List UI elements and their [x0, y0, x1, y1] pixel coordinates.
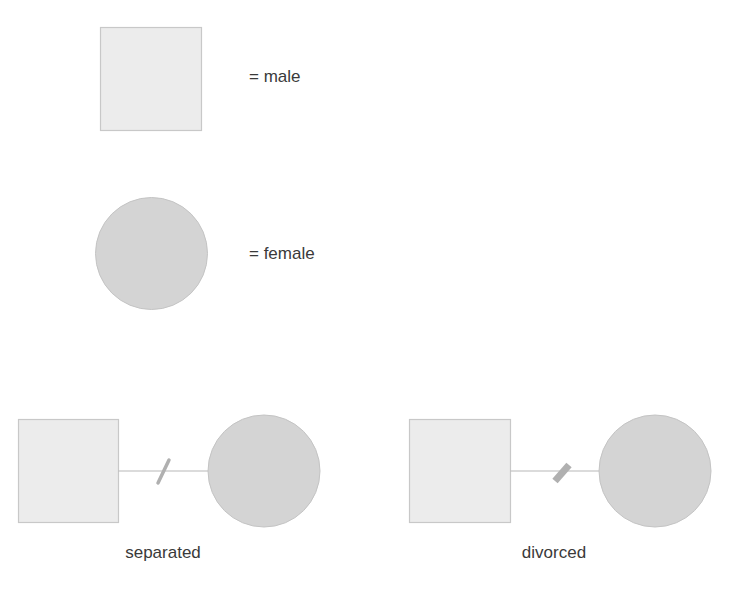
- female-legend-label: = female: [249, 245, 315, 262]
- divorced-female-circle: [599, 415, 711, 527]
- female-circle-symbol: [96, 198, 208, 310]
- divorced-couple: [410, 415, 712, 527]
- genogram-diagram: [0, 0, 744, 594]
- male-legend-label: = male: [249, 68, 301, 85]
- divorced-caption: divorced: [522, 544, 586, 561]
- separated-couple: [19, 415, 321, 527]
- separated-female-circle: [208, 415, 320, 527]
- male-square-symbol: [101, 28, 202, 131]
- divorced-double-slash-marker: [555, 465, 569, 481]
- separated-caption: separated: [125, 544, 201, 561]
- separated-male-square: [19, 420, 119, 523]
- divorced-male-square: [410, 420, 511, 523]
